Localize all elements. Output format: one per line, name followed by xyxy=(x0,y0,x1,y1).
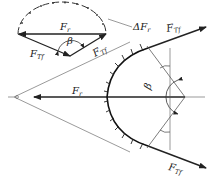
label-bottom-tension: FTf xyxy=(166,161,185,177)
label-top-tension: FTf xyxy=(164,20,182,36)
label-resultant: Fr xyxy=(59,21,71,34)
label-main-resultant: Fr xyxy=(71,85,83,98)
friction-force-diagram: Fr FTf FTf β xyxy=(0,0,220,180)
bottom-tension-vector xyxy=(148,146,206,168)
tension-left-vector xyxy=(18,34,70,56)
label-main-beta: β xyxy=(141,81,154,91)
label-tension-right: FTf xyxy=(90,42,111,61)
label-beta: β xyxy=(66,35,73,46)
force-polygon: Fr FTf FTf β xyxy=(18,2,110,61)
label-tension-left: FTf xyxy=(29,48,45,61)
label-delta-fr: ΔFr xyxy=(132,21,151,34)
